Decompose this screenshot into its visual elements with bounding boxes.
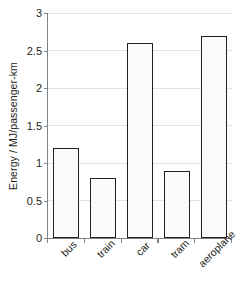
bar-train [90, 178, 116, 238]
bar-chart-figure: Energy / MJ/passenger-km 00.511.522.53 b… [0, 0, 242, 291]
gridline [48, 13, 232, 14]
y-axis-tick-label: 0 [36, 233, 42, 244]
y-axis-tick-mark [44, 88, 48, 89]
x-axis: bustraincartramaeroplane [47, 238, 231, 291]
bar-car [127, 43, 153, 238]
y-axis-tick-label: 0.5 [27, 195, 42, 206]
y-axis-tick-mark [44, 201, 48, 202]
y-axis-title-text: Energy / MJ/passenger-km [7, 62, 19, 190]
y-axis-tick-label: 2 [36, 83, 42, 94]
x-axis-label-train: train [95, 238, 117, 260]
y-axis-tick-label: 1 [36, 158, 42, 169]
y-axis-tick-label: 2.5 [27, 45, 42, 56]
x-axis-tick-mark [194, 238, 195, 243]
bar-tram [164, 171, 190, 239]
y-axis-tick-label: 1.5 [27, 120, 42, 131]
x-axis-tick-mark [157, 238, 158, 243]
y-axis-tick-mark [44, 51, 48, 52]
y-axis-tick-mark [44, 13, 48, 14]
plot-area: 00.511.522.53 [47, 13, 231, 238]
x-axis-label-bus: bus [59, 239, 78, 258]
bar-aeroplane [201, 36, 227, 239]
y-axis-title: Energy / MJ/passenger-km [0, 0, 26, 252]
y-axis-tick-label: 3 [36, 8, 42, 19]
x-axis-tick-mark [47, 238, 48, 243]
bar-bus [53, 148, 79, 238]
x-axis-label-tram: tram [168, 238, 190, 260]
x-axis-tick-mark [121, 238, 122, 243]
y-axis-tick-mark [44, 163, 48, 164]
y-axis-tick-mark [44, 126, 48, 127]
x-axis-label-car: car [134, 240, 152, 258]
x-axis-tick-mark [84, 238, 85, 243]
